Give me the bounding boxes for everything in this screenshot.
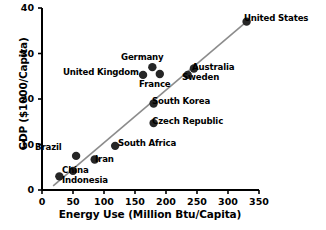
- data-point-label: Germany: [121, 53, 164, 62]
- y-tick-label: 10: [8, 139, 34, 150]
- x-tick-label: 300: [211, 196, 245, 207]
- data-point-label: South Africa: [118, 139, 176, 148]
- data-point-label: Czech Republic: [152, 117, 223, 126]
- data-point-marker: [72, 152, 80, 160]
- data-point-marker: [156, 70, 164, 78]
- x-axis-title: Energy Use (Million Btu/Capita): [0, 208, 300, 220]
- x-tick-label: 100: [87, 196, 121, 207]
- x-tick-label: 350: [242, 196, 276, 207]
- data-point-label: Brazil: [35, 143, 62, 152]
- y-tick-label: 20: [8, 93, 34, 104]
- data-point-label: Iran: [95, 155, 114, 164]
- data-point-label: China: [62, 166, 89, 175]
- scatter-chart: GDP ($1000/Capita) Energy Use (Million B…: [0, 0, 326, 230]
- y-tick-label: 40: [8, 2, 34, 13]
- x-tick-label: 200: [149, 196, 183, 207]
- y-tick-label: 30: [8, 48, 34, 59]
- y-tick-label: 0: [8, 184, 34, 195]
- data-point-label: South Korea: [152, 97, 210, 106]
- data-point-label: France: [139, 80, 171, 89]
- data-point-label: United States: [244, 14, 308, 23]
- x-tick-label: 150: [118, 196, 152, 207]
- data-point-label: United Kingdom: [63, 68, 139, 77]
- x-tick-label: 0: [25, 196, 59, 207]
- data-point-marker: [139, 71, 147, 79]
- x-tick-label: 50: [56, 196, 90, 207]
- data-point-label: Indonesia: [62, 176, 108, 185]
- data-point-label: Australia: [192, 63, 234, 72]
- x-tick-label: 250: [180, 196, 214, 207]
- data-point-label: Sweden: [182, 73, 219, 82]
- data-point-marker: [148, 63, 156, 71]
